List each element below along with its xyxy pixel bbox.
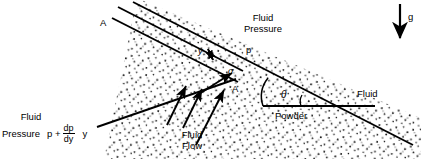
pressure-term-p: p + [47, 129, 60, 140]
theta-angle-label: θ [281, 90, 286, 101]
fluid-pressure-bottom-expression: Pressure p + dp dy y [2, 124, 87, 144]
dp-dy-fraction: dp dy [63, 124, 75, 144]
plane-label-a-upper: A [100, 18, 106, 29]
fluid-right-label: Fluid [357, 89, 378, 100]
fluid-flow-line2: Flow [172, 141, 212, 152]
fluid-pressure-bottom-y: y [83, 129, 88, 140]
slab-thickness-label: y [198, 46, 203, 57]
plane-label-a-lower: A [232, 84, 238, 95]
fluid-pressure-top-label: Fluid Pressure [234, 13, 292, 34]
fluid-pressure-bottom-line1: Fluid [8, 112, 54, 123]
fluid-pressure-bottom-label: Fluid [8, 112, 54, 123]
fraction-denominator: dy [63, 135, 75, 144]
fluid-pressure-bottom-line2: Pressure [2, 129, 40, 140]
fluid-flow-line1: Fluid [172, 130, 212, 141]
powder-label: Powder [275, 111, 307, 122]
fluid-pressure-top-line1: Fluid [234, 13, 292, 24]
fraction-numerator: dp [63, 124, 75, 133]
fluid-flow-label: Fluid Flow [172, 130, 212, 151]
fluid-pressure-top-line2: Pressure [234, 24, 292, 35]
gravity-label: g [408, 12, 413, 23]
normal-stress-label: σ [228, 66, 233, 77]
fluid-pressure-top-value: p [246, 45, 251, 56]
powder-bed-diagram: A y σ A Fluid Pressure p Fluid Pressure … [0, 0, 421, 159]
